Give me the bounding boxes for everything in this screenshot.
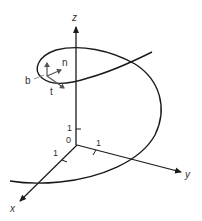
y-tick: [93, 150, 96, 155]
x-tick: [62, 160, 67, 162]
x-axis: [20, 145, 77, 201]
z-tick-label: 1: [67, 123, 72, 133]
helix-curve: [10, 48, 161, 183]
normal-label: n: [62, 57, 68, 68]
x-axis-label: x: [9, 203, 16, 214]
helix-diagram: z y x 0 1 1 1 b n t: [0, 0, 202, 221]
y-axis-label: y: [184, 169, 191, 180]
origin-label: 0: [66, 135, 71, 145]
normal-vector: [47, 70, 61, 76]
z-axis-label: z: [71, 12, 77, 23]
y-axis: [77, 145, 181, 172]
y-tick-label: 1: [96, 138, 101, 148]
x-tick-label: 1: [53, 148, 58, 158]
binormal-label: b: [25, 75, 31, 86]
tangent-label: t: [50, 86, 53, 97]
